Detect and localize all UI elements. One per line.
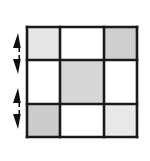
arrow-pair-lower [13, 88, 21, 129]
cell-r0-c1 [60, 27, 104, 60]
arrow-markers [13, 33, 21, 129]
grid-cell-fills [27, 27, 137, 137]
arrow-pair-upper [13, 33, 21, 74]
cell-r1-c1 [60, 60, 104, 104]
cell-r2-c1 [60, 104, 104, 137]
arrow-up-upper [13, 33, 21, 48]
cell-r0-c0 [27, 27, 60, 60]
arrow-down-lower [13, 114, 21, 129]
cell-r2-c2 [104, 104, 137, 137]
cell-r1-c2 [104, 60, 137, 104]
figure-root [0, 0, 150, 161]
cell-r2-c0 [27, 104, 60, 137]
cell-r0-c2 [104, 27, 137, 60]
grid-diagram-svg [0, 0, 150, 161]
arrow-up-lower [13, 88, 21, 103]
arrow-down-upper [13, 59, 21, 74]
cell-r1-c0 [27, 60, 60, 104]
